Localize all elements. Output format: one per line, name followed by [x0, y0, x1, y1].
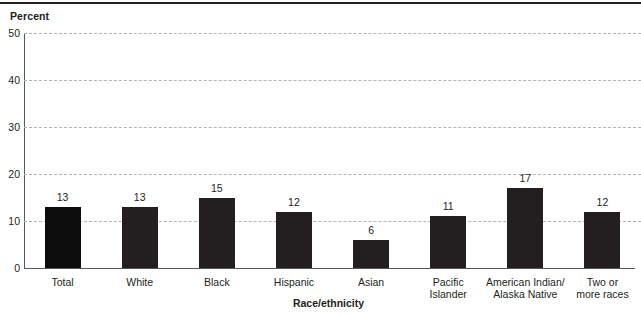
bar-chart: Percent 01020304050 131315126111712 Tota… — [0, 0, 641, 315]
y-tick-20: 20 — [0, 169, 20, 180]
bar — [507, 188, 543, 268]
x-axis-title-text: Race/ethnicity — [293, 297, 364, 309]
bar — [353, 240, 389, 268]
y-axis-line — [24, 33, 25, 269]
x-axis-title: Race/ethnicity — [0, 297, 641, 309]
bar-value-label: 17 — [495, 173, 555, 184]
gridline-40 — [24, 80, 641, 81]
bar — [199, 198, 235, 269]
plot-area: 01020304050 131315126111712 TotalWhiteBl… — [0, 0, 641, 315]
gridline-50 — [24, 33, 641, 34]
gridline-30 — [24, 127, 641, 128]
gridline-0 — [24, 268, 635, 269]
bar — [584, 212, 620, 268]
y-tick-10: 10 — [0, 216, 20, 227]
bar — [45, 207, 81, 268]
bar-value-label: 6 — [341, 225, 401, 236]
y-tick-0: 0 — [0, 263, 20, 274]
y-tick-50: 50 — [0, 28, 20, 39]
y-tick-40: 40 — [0, 75, 20, 86]
bar — [276, 212, 312, 268]
bar-value-label: 13 — [110, 192, 170, 203]
bar-value-label: 11 — [418, 201, 478, 212]
y-tick-30: 30 — [0, 122, 20, 133]
bar-value-label: 12 — [264, 197, 324, 208]
gridline-10 — [24, 221, 641, 222]
bar — [122, 207, 158, 268]
bar — [430, 216, 466, 268]
bar-value-label: 13 — [33, 192, 93, 203]
bar-value-label: 12 — [572, 197, 632, 208]
x-tick-label-line: Two or — [554, 277, 641, 289]
bar-value-label: 15 — [187, 183, 247, 194]
